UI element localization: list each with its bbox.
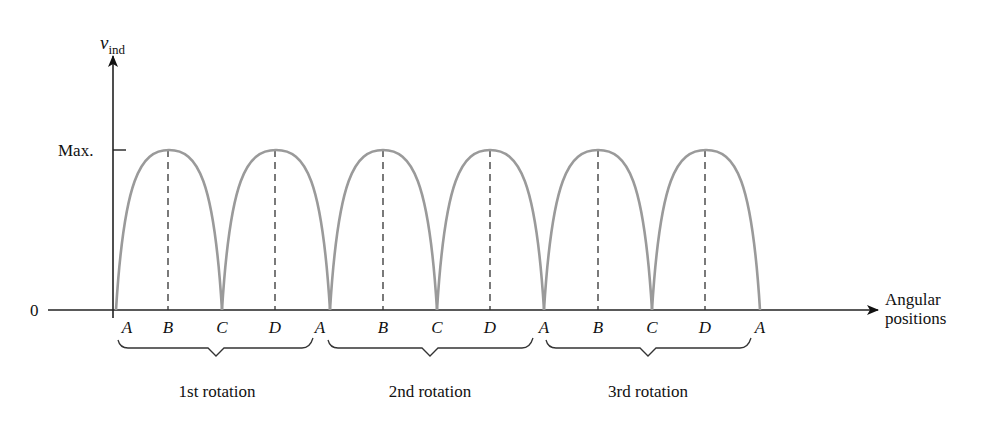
rotation-label-2: 2nd rotation — [389, 382, 472, 402]
position-label-d: D — [269, 318, 281, 338]
rotation-braces — [118, 338, 751, 356]
y-tick-max-label: Max. — [58, 142, 93, 159]
x-axis-label-line1: Angular — [885, 290, 946, 309]
rotation-label-3: 3rd rotation — [608, 382, 688, 402]
position-label-d: D — [699, 318, 711, 338]
y-axis-label-sub: ind — [108, 42, 125, 57]
position-label-d: D — [484, 318, 496, 338]
position-label-b: B — [378, 318, 388, 338]
voltage-curve — [116, 150, 760, 310]
position-label-a: A — [122, 318, 132, 338]
position-label-c: C — [216, 318, 227, 338]
position-label-b: B — [593, 318, 603, 338]
position-label-a: A — [539, 318, 549, 338]
x-axis-label-line2: positions — [885, 309, 946, 328]
position-label-a: A — [755, 318, 765, 338]
y-axis-label: vind — [100, 33, 125, 56]
position-label-c: C — [431, 318, 442, 338]
y-tick-zero-label: 0 — [30, 302, 39, 319]
induced-voltage-diagram — [0, 0, 983, 430]
position-label-c: C — [646, 318, 657, 338]
x-axis-label: Angular positions — [885, 290, 946, 328]
position-label-b: B — [163, 318, 173, 338]
rotation-label-1: 1st rotation — [179, 382, 256, 402]
position-label-a: A — [315, 318, 325, 338]
